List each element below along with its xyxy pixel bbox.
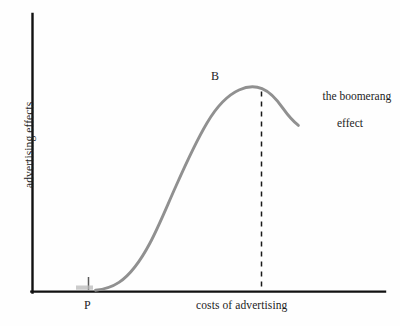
plot-background — [0, 0, 400, 326]
threshold-axis-shading — [76, 286, 93, 290]
plot-canvas — [0, 0, 400, 326]
threshold-point-label: P — [84, 298, 91, 312]
boomerang-effect-annotation: the boomerang effect — [311, 76, 397, 157]
chart-figure: advertising effects costs of advertising… — [0, 0, 400, 326]
boomerang-annotation-line-1: the boomerang — [323, 90, 392, 102]
boomerang-annotation-line-2: effect — [311, 117, 397, 131]
y-axis-label: advertising effects — [23, 85, 37, 205]
peak-point-label: B — [211, 69, 219, 83]
x-axis-label: costs of advertising — [196, 299, 287, 313]
